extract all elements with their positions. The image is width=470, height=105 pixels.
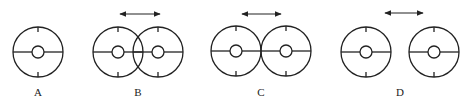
figure-label: D [396, 86, 404, 98]
figure-label: C [257, 86, 264, 98]
wheel-icon [261, 26, 311, 76]
inner-circle [112, 46, 124, 58]
figure-d [341, 13, 459, 77]
wheel-icon [13, 27, 63, 77]
inner-circle [152, 46, 164, 58]
figure-a [13, 27, 63, 77]
inner-circle [280, 45, 292, 57]
inner-circle [360, 46, 372, 58]
figure-label: B [134, 86, 141, 98]
wheel-icon [341, 27, 391, 77]
figure-label: A [34, 86, 42, 98]
inner-circle [428, 46, 440, 58]
inner-circle [230, 45, 242, 57]
wheel-icon [409, 27, 459, 77]
wheel-icon [133, 27, 183, 77]
figure-b [93, 14, 183, 77]
inner-circle [32, 46, 44, 58]
figure-c [211, 14, 311, 76]
wheel-icon [211, 26, 261, 76]
